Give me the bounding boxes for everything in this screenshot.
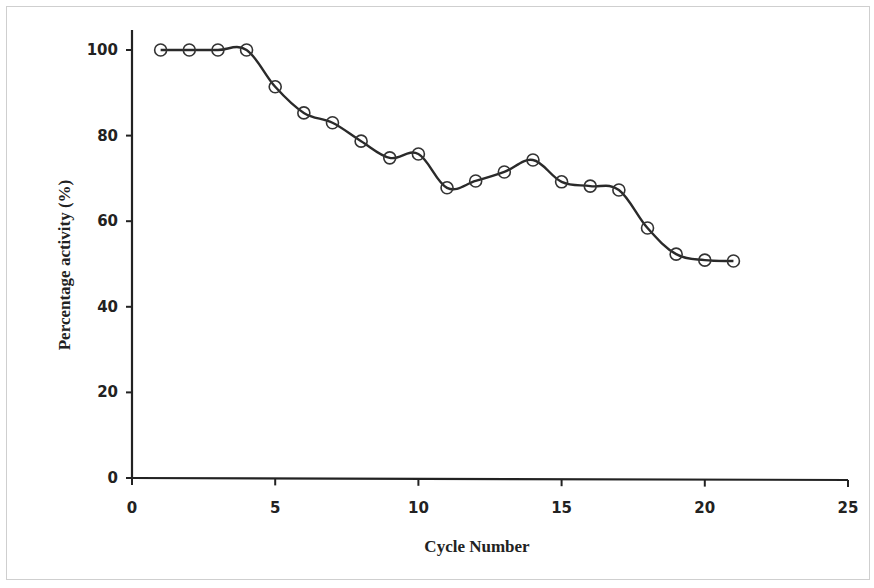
y-tick-label: 20 <box>97 383 118 401</box>
y-axis-title: Percentage activity (%) <box>55 180 74 351</box>
y-axis-ticks: 020406080100 <box>87 41 132 487</box>
x-tick-label: 20 <box>694 499 715 517</box>
x-tick-label: 10 <box>408 499 429 517</box>
x-axis-line <box>132 478 848 480</box>
x-tick-label: 25 <box>838 499 859 517</box>
data-line <box>161 47 734 261</box>
x-axis-ticks: 0510152025 <box>127 478 859 517</box>
y-tick-label: 0 <box>108 469 118 487</box>
x-tick-label: 15 <box>551 499 572 517</box>
y-tick-label: 60 <box>97 212 118 230</box>
x-tick-label: 0 <box>127 499 137 517</box>
line-chart: 020406080100 0510152025 Cycle Number Per… <box>0 0 874 588</box>
y-tick-label: 40 <box>97 298 118 316</box>
x-tick-label: 5 <box>270 499 280 517</box>
x-axis-title: Cycle Number <box>424 537 530 556</box>
y-tick-label: 80 <box>97 127 118 145</box>
y-tick-label: 100 <box>87 41 118 59</box>
